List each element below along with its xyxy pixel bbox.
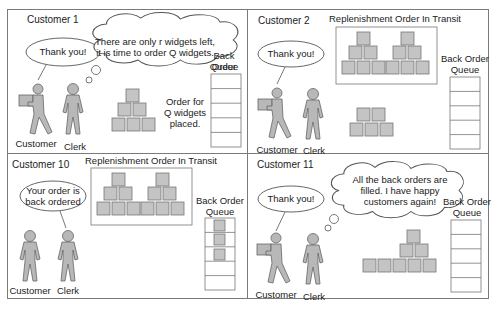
queue-label-line-1: Back Order [442,196,492,207]
clerk-thought-line-1: There are only r widgets left, [95,36,215,47]
clerk-label: Clerk [60,141,90,152]
panel-2-graphics [258,27,480,149]
clerk-thought-line-2: it is time to order Q widgets. [95,47,215,58]
queue-label-line-1: Back Order [440,53,490,64]
transit-label: Replenishment Order In Transit [85,155,217,166]
clerk-thought-line-1: All the back orders are [340,174,460,185]
queue-label-line-1: Back Order [195,195,245,206]
clerk-speech-line-1: Your order is [22,185,84,196]
customer-label: Customer [12,138,60,149]
clerk-speech-line-2: back ordered [22,196,84,207]
queue-label-line-2: Queue [200,61,248,72]
order-note-line-3: placed. [160,118,210,129]
customer-speech-text: Thank you! [30,46,96,57]
order-note-line-2: Q widgets [160,107,210,118]
queue-label-line-2: Queue [440,64,490,75]
clerk-thought-line-2: filled. I have happy [340,185,460,196]
customer-speech-text: Thank you! [258,48,324,59]
queue-label-line-2: Queue [195,206,245,217]
panel-title: Customer 2 [258,15,310,26]
order-note-line-1: Order for [160,96,210,107]
panel-title: Customer 10 [12,159,69,170]
transit-label: Replenishment Order In Transit [329,13,461,24]
panel-title: Customer 1 [27,14,79,25]
panel-title: Customer 11 [257,159,314,170]
customer-label: Customer [253,144,301,155]
customer-label: Customer [252,289,300,300]
clerk-label: Clerk [299,145,329,156]
clerk-label: Clerk [299,291,329,302]
queue-label-line-2: Queue [442,207,492,218]
customer-label: Customer [6,285,54,296]
customer-speech-text: Thank you! [258,193,324,204]
clerk-label: Clerk [53,285,83,296]
